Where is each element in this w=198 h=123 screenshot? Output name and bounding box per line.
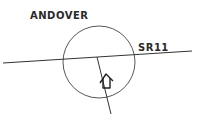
town-label: ANDOVER xyxy=(30,10,88,21)
area-circle xyxy=(63,26,135,98)
road-label: SR11 xyxy=(138,42,169,53)
access-road-line xyxy=(97,57,111,114)
